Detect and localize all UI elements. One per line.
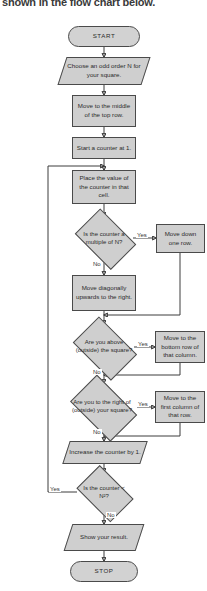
node-move-down-one-row[interactable]: Move down one row.: [156, 224, 205, 253]
node-decision-above-square[interactable]: Are you above (outside) the square?: [70, 324, 138, 370]
node-show-result-label: Show your result.: [68, 533, 140, 542]
node-place-value[interactable]: Place the value of the counter in that c…: [72, 170, 136, 204]
node-decision-above-square-label: Are you above (outside) the square?: [75, 339, 133, 355]
node-show-result[interactable]: Show your result.: [68, 524, 140, 551]
node-choose-order[interactable]: Choose an odd order N for your square.: [62, 57, 146, 85]
node-move-first-column-label: Move to the first column of that row.: [158, 394, 202, 420]
node-increase-counter[interactable]: Increase the counter by 1.: [66, 441, 144, 464]
node-move-bottom-row[interactable]: Move to the bottom row of that column.: [155, 331, 205, 363]
node-move-middle[interactable]: Move to the middle of the top row.: [72, 95, 136, 127]
edge-label-less-no: No: [106, 512, 116, 518]
node-move-diagonally[interactable]: Move diagonally upwards to the right.: [72, 275, 136, 311]
node-start-counter-label: Start a counter at 1.: [77, 144, 131, 153]
edge-label-right-no: No: [92, 429, 102, 435]
node-move-down-one-row-label: Move down one row.: [159, 230, 202, 247]
edge-label-multiple-no: No: [92, 261, 102, 267]
node-place-value-label: Place the value of the counter in that c…: [75, 174, 133, 200]
node-move-middle-label: Move to the middle of the top row.: [75, 102, 133, 119]
node-decision-counter-less-than-n-squared-label: Is the counter < N²?: [78, 485, 130, 501]
edge-label-less-yes: Yes: [49, 486, 61, 492]
node-increase-counter-label: Increase the counter by 1.: [66, 448, 144, 457]
node-move-diagonally-label: Move diagonally upwards to the right.: [75, 284, 133, 301]
node-start[interactable]: START: [68, 26, 140, 47]
edge-label-right-yes: Yes: [137, 401, 149, 407]
node-choose-order-label: Choose an odd order N for your square.: [62, 62, 146, 79]
node-move-bottom-row-label: Move to the bottom row of that column.: [158, 334, 202, 360]
node-decision-counter-less-than-n-squared[interactable]: Is the counter < N²?: [74, 472, 134, 513]
node-move-first-column[interactable]: Move to the first column of that row.: [155, 391, 205, 423]
edge-label-above-no: No: [92, 369, 102, 375]
edge-label-above-yes: Yes: [137, 341, 149, 347]
node-decision-right-of-square[interactable]: Are you to the right of (outside) your s…: [66, 383, 138, 431]
node-stop-label: STOP: [94, 567, 113, 576]
node-decision-multiple-of-n-label: Is the counter a multiple of N?: [76, 231, 131, 247]
edge-label-multiple-yes: Yes: [136, 232, 148, 238]
node-stop[interactable]: STOP: [70, 561, 138, 582]
node-start-counter[interactable]: Start a counter at 1.: [72, 137, 136, 159]
flowchart-diagram: START Choose an odd order N for your squ…: [0, 0, 207, 591]
node-start-label: START: [93, 32, 116, 41]
node-decision-right-of-square-label: Are you to the right of (outside) your s…: [71, 399, 133, 415]
node-decision-multiple-of-n[interactable]: Is the counter a multiple of N?: [72, 216, 136, 261]
